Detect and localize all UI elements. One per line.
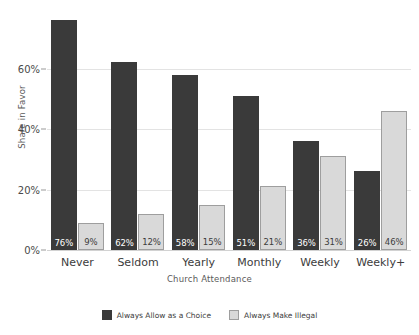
bar-value-label: 51% <box>233 238 259 248</box>
bar-value-label: 46% <box>382 237 406 247</box>
bar-value-label: 58% <box>172 238 198 248</box>
bar[interactable]: 12% <box>138 214 164 250</box>
bar-value-label: 76% <box>51 238 77 248</box>
bar[interactable]: 31% <box>320 156 346 250</box>
bar-value-label: 21% <box>261 237 285 247</box>
bar[interactable]: 58% <box>172 75 198 250</box>
x-tick-label: Seldom <box>117 256 158 269</box>
y-axis-title: Share in Favor <box>17 62 27 172</box>
legend-item-allow[interactable]: Always Allow as a Choice <box>102 310 211 320</box>
bar-value-label: 12% <box>139 237 163 247</box>
bar-value-label: 9% <box>79 237 103 247</box>
x-axis-title: Church Attendance <box>0 274 419 284</box>
bar[interactable]: 62% <box>111 62 137 250</box>
legend-label-illegal: Always Make Illegal <box>244 311 317 320</box>
legend-item-illegal[interactable]: Always Make Illegal <box>229 310 317 320</box>
y-tick-label: 40% <box>18 124 40 135</box>
bar-group: 51%21% <box>229 8 290 250</box>
x-tick-label: Weekly <box>300 256 340 269</box>
y-tick-mark <box>41 68 46 69</box>
legend-swatch-allow-icon <box>102 310 112 320</box>
x-tick-label: Never <box>61 256 94 269</box>
y-tick-label: 20% <box>18 184 40 195</box>
bar[interactable]: 46% <box>381 111 407 250</box>
y-tick-mark <box>41 189 46 190</box>
bar-value-label: 62% <box>111 238 137 248</box>
bar-group: 76%9% <box>47 8 108 250</box>
x-axis-line <box>47 250 411 251</box>
legend-label-allow: Always Allow as a Choice <box>117 311 211 320</box>
bar[interactable]: 15% <box>199 205 225 250</box>
bar[interactable]: 9% <box>78 223 104 250</box>
y-tick-label: 0% <box>24 245 40 256</box>
bar-value-label: 36% <box>293 238 319 248</box>
bar[interactable]: 21% <box>260 186 286 250</box>
bar-group: 62%12% <box>108 8 169 250</box>
chart-legend: Always Allow as a Choice Always Make Ill… <box>0 310 419 320</box>
y-tick-mark <box>41 250 46 251</box>
plot-area: 0%20%40%60%76%9%62%12%58%15%51%21%36%31%… <box>47 8 411 250</box>
bar[interactable]: 51% <box>233 96 259 250</box>
bar-value-label: 26% <box>354 238 380 248</box>
legend-swatch-illegal-icon <box>229 310 239 320</box>
bar-value-label: 15% <box>200 237 224 247</box>
y-tick-mark <box>41 129 46 130</box>
bar-group: 58%15% <box>168 8 229 250</box>
bar-value-label: 31% <box>321 237 345 247</box>
bar[interactable]: 76% <box>51 20 77 250</box>
bar[interactable]: 36% <box>293 141 319 250</box>
bar[interactable]: 26% <box>354 171 380 250</box>
x-tick-label: Monthly <box>237 256 281 269</box>
bar-group: 26%46% <box>350 8 411 250</box>
bar-chart: Share in Favor 0%20%40%60%76%9%62%12%58%… <box>0 0 419 335</box>
x-tick-label: Yearly <box>182 256 215 269</box>
bar-group: 36%31% <box>290 8 351 250</box>
x-tick-label: Weekly+ <box>356 256 405 269</box>
y-tick-label: 60% <box>18 63 40 74</box>
